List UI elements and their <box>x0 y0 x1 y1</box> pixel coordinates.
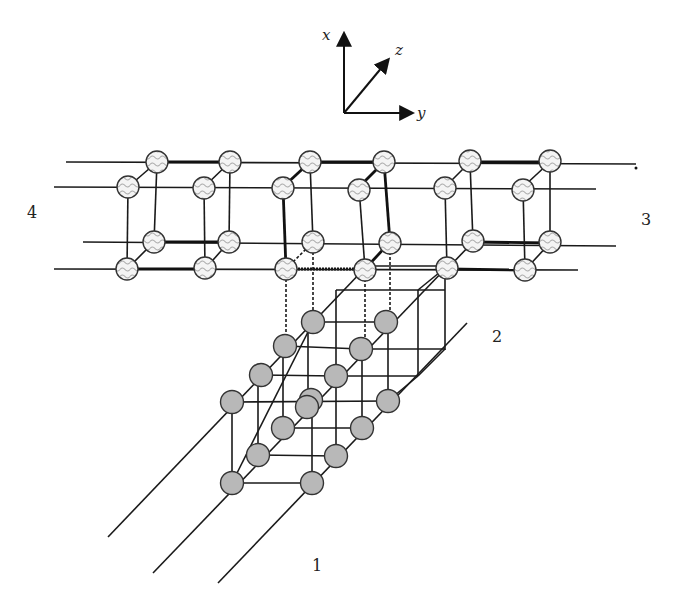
hatched-atom <box>434 177 456 199</box>
hatched-atom <box>275 258 297 280</box>
region-label-2: 2 <box>492 327 502 346</box>
gray-atom <box>377 390 400 413</box>
hatched-atom <box>194 257 216 279</box>
gray-atom <box>325 445 348 468</box>
hatched-atom <box>302 231 324 253</box>
gray-atom <box>301 472 324 495</box>
gray-atom <box>296 396 319 419</box>
gray-atom <box>221 391 244 414</box>
hatched-atom <box>146 151 168 173</box>
gray-atom <box>350 338 373 361</box>
z-axis-label: z <box>394 41 403 59</box>
region-label-3: 3 <box>641 210 651 229</box>
hatched-atom <box>459 150 481 172</box>
hatched-atom <box>299 151 321 173</box>
hatched-atom <box>514 259 536 281</box>
z-axis-arrow <box>344 60 388 113</box>
gray-atom <box>302 311 325 334</box>
upper-lattice-cubes <box>127 162 550 270</box>
upper-lattice-atoms <box>116 150 561 281</box>
gray-atom <box>247 444 270 467</box>
hatched-atom <box>272 177 294 199</box>
hatched-atom <box>193 177 215 199</box>
region-label-4: 4 <box>27 203 37 222</box>
gray-atom <box>272 417 295 440</box>
lattice-diagram: x y z <box>0 0 676 603</box>
hatched-atom <box>539 150 561 172</box>
hatched-atom <box>143 231 165 253</box>
gray-atom <box>325 365 348 388</box>
hatched-atom <box>218 231 240 253</box>
hatched-atom <box>379 232 401 254</box>
gray-atom <box>375 311 398 334</box>
gray-atom <box>250 364 273 387</box>
gray-atom <box>274 335 297 358</box>
hatched-atom <box>354 259 376 281</box>
hatched-atom <box>348 179 370 201</box>
hatched-atom <box>539 231 561 253</box>
gray-atom <box>351 417 374 440</box>
hatched-atom <box>117 176 139 198</box>
region-label-1: 1 <box>312 556 322 575</box>
gray-atom <box>221 472 244 495</box>
y-axis-label: y <box>416 104 426 122</box>
hatched-atom <box>219 151 241 173</box>
coordinate-axes: x y z <box>322 26 426 122</box>
hatched-atom <box>462 230 484 252</box>
hatched-atom <box>116 258 138 280</box>
x-axis-label: x <box>322 26 331 44</box>
hatched-atom <box>512 179 534 201</box>
hatched-atom <box>373 151 395 173</box>
hatched-atom <box>436 257 458 279</box>
region-labels: 1 2 3 4 <box>27 203 651 575</box>
